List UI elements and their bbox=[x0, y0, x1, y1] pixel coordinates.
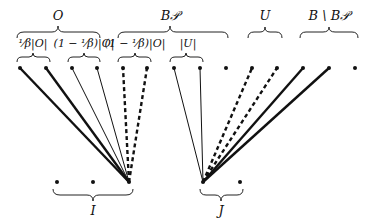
label-O: O bbox=[53, 8, 64, 23]
label-frac-O: ¹⁄β|O| bbox=[18, 37, 47, 50]
label-one-minus-2: (1 − ¹⁄β)|O| bbox=[105, 37, 166, 50]
label-abs-U: |U| bbox=[180, 37, 197, 50]
brace-J bbox=[200, 189, 243, 201]
edges bbox=[20, 68, 329, 182]
brace-one-minus-1 bbox=[68, 53, 100, 62]
label-B-minus-BP: B \ B𝒫 bbox=[309, 8, 350, 24]
brace-abs-U bbox=[170, 53, 203, 62]
brace-B-minus-BP bbox=[300, 27, 358, 38]
label-J: J bbox=[218, 203, 223, 218]
label-U: U bbox=[260, 8, 271, 23]
label-BP: B𝒫 bbox=[161, 8, 180, 24]
brace-U bbox=[248, 27, 282, 38]
label-I: I bbox=[90, 203, 95, 218]
brace-frac-O bbox=[17, 53, 50, 62]
vertices bbox=[18, 66, 357, 184]
top-braces bbox=[17, 26, 358, 201]
bipartite-diagram bbox=[0, 0, 373, 223]
brace-one-minus-2 bbox=[118, 53, 151, 62]
brace-I bbox=[53, 189, 133, 201]
